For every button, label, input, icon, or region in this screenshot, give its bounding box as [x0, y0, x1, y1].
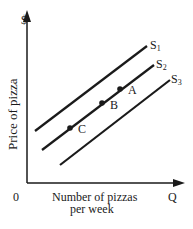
point-b	[99, 100, 105, 106]
y-axis-label: Price of pizza	[5, 79, 21, 150]
x-axis-end-label: Q	[168, 191, 177, 203]
point-c-label: C	[78, 123, 86, 135]
x-axis-arrow-icon	[173, 179, 185, 187]
supply-shift-chart: $ Price of pizza S1 S2 S3 A B C 0 Q Numb…	[0, 0, 193, 229]
origin-label: 0	[13, 191, 19, 203]
point-a	[117, 86, 123, 92]
supply-curve-s2	[42, 65, 154, 150]
s3-label: S3	[171, 73, 182, 89]
y-axis-end-label: $	[21, 14, 27, 26]
s2-label: S2	[156, 58, 167, 74]
s1-label: S1	[150, 39, 161, 55]
point-c	[67, 125, 73, 131]
x-axis-label-line2: per week	[70, 203, 114, 215]
point-b-label: B	[110, 99, 118, 111]
point-a-label: A	[128, 84, 137, 96]
